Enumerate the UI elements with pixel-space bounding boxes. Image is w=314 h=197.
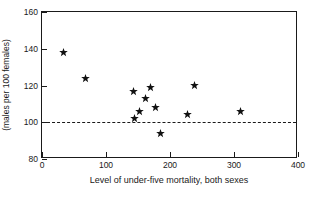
y-tick-mark <box>42 12 47 13</box>
x-tick-mark <box>298 152 299 157</box>
data-point-marker <box>190 81 199 90</box>
data-point-marker <box>183 110 192 119</box>
parity-line <box>42 122 296 123</box>
y-tick-mark <box>42 122 47 123</box>
x-tick-label: 100 <box>99 161 113 170</box>
y-axis-title-container: (males per 100 females) <box>0 11 12 158</box>
data-point-marker <box>81 74 90 83</box>
data-point-marker <box>146 83 155 92</box>
scatter-chart-figure: 80100120140160 0100200300400 (males per … <box>0 0 314 197</box>
data-point-marker <box>156 129 165 138</box>
data-point-marker <box>141 94 150 103</box>
y-tick-label: 100 <box>24 118 38 127</box>
y-tick-mark <box>42 49 47 50</box>
y-tick-label: 140 <box>24 45 38 54</box>
x-axis-title: Level of under-five mortality, both sexe… <box>41 176 297 185</box>
data-point-marker <box>129 87 138 96</box>
x-tick-mark <box>42 152 43 157</box>
x-tick-label: 300 <box>227 161 241 170</box>
data-point-marker <box>135 107 144 116</box>
data-point-marker <box>151 103 160 112</box>
data-point-marker <box>59 48 68 57</box>
y-tick-mark <box>42 86 47 87</box>
plot-area: 80100120140160 0100200300400 <box>41 11 297 158</box>
y-tick-label: 160 <box>24 8 38 17</box>
x-tick-label: 200 <box>163 161 177 170</box>
x-tick-mark <box>170 152 171 157</box>
x-tick-label: 0 <box>40 161 45 170</box>
x-tick-label: 400 <box>291 161 305 170</box>
data-point-marker <box>236 107 245 116</box>
y-tick-label: 120 <box>24 81 38 90</box>
x-tick-mark <box>106 152 107 157</box>
y-tick-label: 80 <box>29 155 38 164</box>
y-axis-title: (males per 100 females) <box>2 39 11 131</box>
x-tick-mark <box>234 152 235 157</box>
